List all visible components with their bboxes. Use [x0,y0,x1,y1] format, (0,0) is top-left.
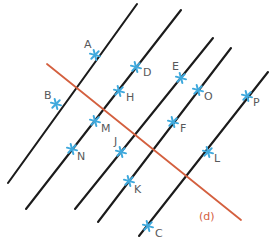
point-label-A: A [84,38,92,51]
point-M: M [90,116,111,135]
point-label-M: M [101,122,111,135]
star-marker-icon [90,116,100,126]
star-marker-icon [168,117,178,127]
line-labels-group: (d) [199,210,215,223]
star-marker-icon [124,176,134,186]
diagram-canvas: ABCDEFHJKLMNOP (d) [0,0,278,242]
point-label-B: B [44,89,52,102]
point-label-F: F [180,122,186,135]
point-label-K: K [134,183,142,196]
point-label-P: P [253,96,260,109]
point-label-C: C [155,227,163,240]
point-A: A [84,38,100,60]
point-H: H [114,86,134,104]
point-E: E [172,60,186,83]
line-d-label: (d) [199,210,215,223]
point-label-O: O [204,90,213,103]
point-label-D: D [143,66,151,79]
point-C: C [143,221,163,240]
star-marker-icon [114,86,124,96]
geometry-figure: ABCDEFHJKLMNOP (d) [0,0,278,242]
star-marker-icon [116,147,126,157]
point-label-N: N [77,150,85,163]
point-label-J: J [113,135,117,148]
star-marker-icon [67,144,77,154]
point-label-H: H [126,91,134,104]
point-J: J [113,135,126,157]
star-marker-icon [51,99,61,109]
star-marker-icon [203,147,213,157]
star-marker-icon [143,221,153,231]
point-label-L: L [214,152,221,165]
parallel-lines-group [8,4,268,236]
point-label-E: E [172,60,179,73]
point-B: B [44,89,61,109]
star-marker-icon [242,91,252,101]
star-marker-icon [193,85,203,95]
star-marker-icon [131,62,141,72]
star-marker-icon [176,73,186,83]
